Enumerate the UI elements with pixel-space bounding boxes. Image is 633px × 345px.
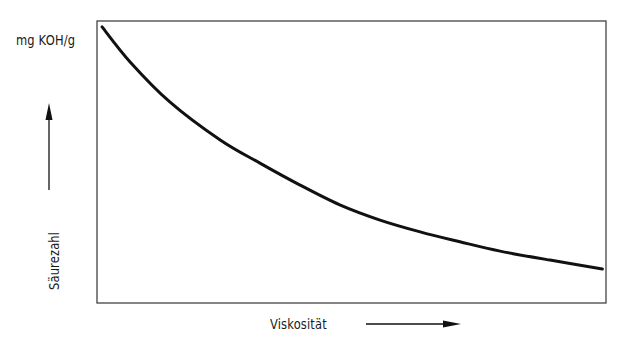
x-axis-arrow-icon (366, 321, 461, 328)
chart-canvas (0, 0, 633, 345)
y-axis-label: Säurezahl (46, 232, 62, 290)
plot-frame (97, 21, 606, 303)
x-axis-label: Viskosität (270, 316, 327, 332)
y-unit-label: mg KOH/g (16, 32, 75, 48)
y-axis-arrow-icon (46, 103, 53, 190)
curve-line (102, 27, 602, 269)
